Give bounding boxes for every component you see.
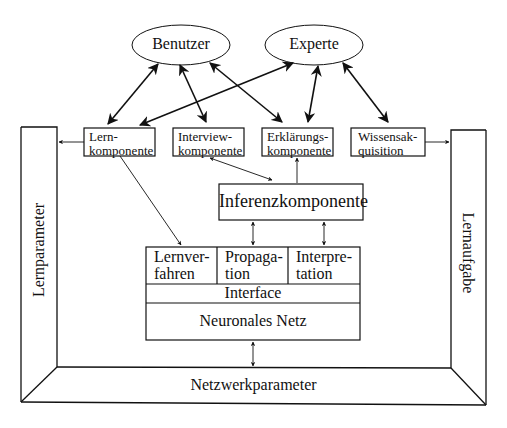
interview-line2: komponente	[178, 144, 242, 158]
arrow-experte-wissen	[343, 63, 388, 122]
arrow-experte-lern	[140, 63, 293, 125]
wissen-line2: quisition	[358, 144, 417, 158]
interpretation-line2: tation	[296, 266, 352, 283]
arrow-lern-lernverfahren	[120, 156, 181, 245]
lernverfahren-label: Lernver- fahren	[154, 249, 210, 283]
erklaerung-line2: komponente	[267, 144, 331, 158]
propagation-line2: tion	[225, 266, 283, 283]
arrow-interview-inferenz	[210, 158, 272, 180]
benutzer-label: Benutzer	[132, 36, 230, 53]
diagram-canvas	[0, 0, 507, 428]
neuronales-netz-label: Neuronales Netz	[146, 313, 360, 330]
bottom-panel-inner	[57, 367, 451, 368]
arrow-benutzer-interview	[180, 65, 206, 122]
propagation-label: Propaga- tion	[225, 249, 283, 283]
interviewkomponente-label: Interview- komponente	[178, 130, 242, 157]
bottom-panel-outer	[21, 402, 486, 405]
inferenzkomponente-label: Inferenzkomponente	[219, 192, 363, 211]
erklaerung-line1: Erklärungs-	[267, 130, 331, 144]
wissen-line1: Wissensak-	[358, 130, 417, 144]
corner-left	[21, 367, 57, 402]
interface-label: Interface	[146, 285, 360, 302]
propagation-line1: Propaga-	[225, 249, 283, 266]
wissensakquisition-label: Wissensak- quisition	[358, 130, 417, 157]
interpretation-line1: Interpre-	[296, 249, 352, 266]
erklaerungskomponente-label: Erklärungs- komponente	[267, 130, 331, 157]
lern-line2: komponente	[89, 144, 153, 158]
arrow-benutzer-lern	[108, 64, 158, 124]
lernaufgabe-label: Lernaufgabe	[460, 213, 477, 294]
interpretation-label: Interpre- tation	[296, 249, 352, 283]
lernverfahren-line1: Lernver-	[154, 249, 210, 266]
arrow-experte-erklaerung	[308, 66, 318, 122]
lernparameter-label: Lernparameter	[31, 203, 48, 297]
lernverfahren-line2: fahren	[154, 266, 210, 283]
lern-line1: Lern-	[89, 130, 153, 144]
lernkomponente-label: Lern- komponente	[89, 130, 153, 157]
interview-line1: Interview-	[178, 130, 242, 144]
corner-right	[451, 368, 486, 405]
experte-label: Experte	[265, 36, 363, 53]
netzwerkparameter-label: Netzwerkparameter	[100, 377, 407, 394]
